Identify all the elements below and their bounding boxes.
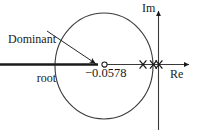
dominant-root-value-label: −0.0578 <box>85 67 126 81</box>
annotation-line-1: Dominant <box>8 33 56 46</box>
real-axis-label: Re <box>170 68 183 81</box>
annotation-line-2: root <box>8 72 56 85</box>
annotation-dominant-root: Dominant root <box>8 7 56 111</box>
root-locus-diagram: Dominant root −0.0578 Im Re <box>0 0 199 131</box>
imaginary-axis-label: Im <box>142 2 155 15</box>
